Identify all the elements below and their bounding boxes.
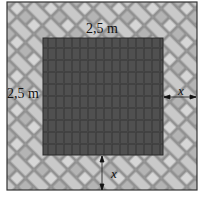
top-side-label: 2,5 m bbox=[86, 22, 118, 36]
bottom-width-label: x bbox=[111, 167, 117, 180]
inner-square bbox=[43, 38, 163, 155]
right-width-label: x bbox=[178, 84, 184, 97]
left-side-label: 2,5 m bbox=[7, 87, 39, 101]
